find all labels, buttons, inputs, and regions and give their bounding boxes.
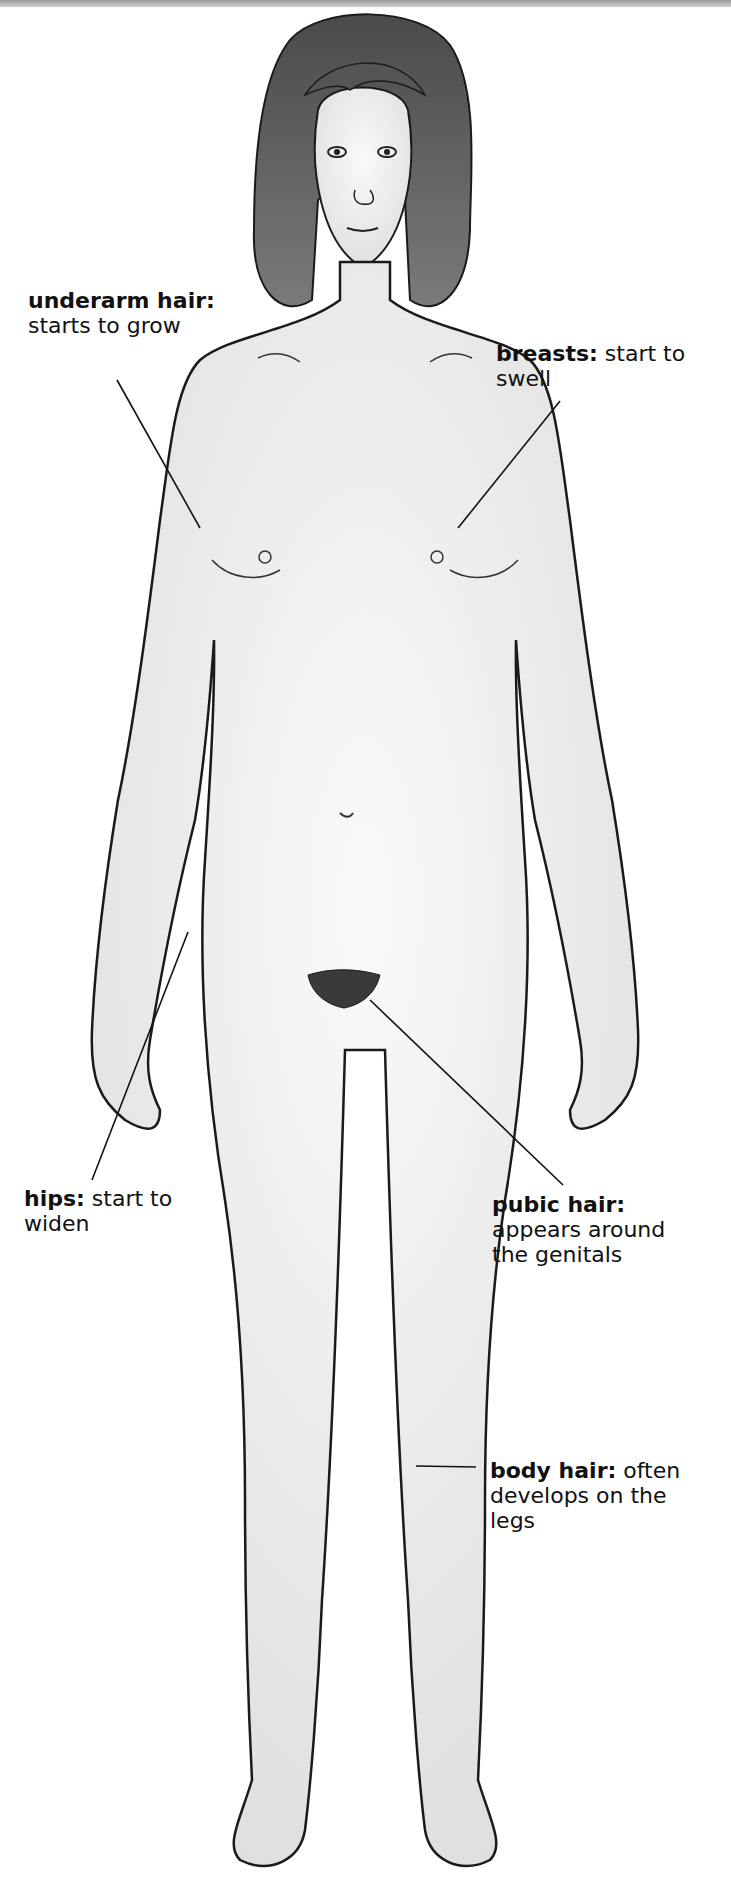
label-description: develops on the: [490, 1483, 667, 1508]
label-body-hair: body hair: often develops on the legs: [490, 1458, 680, 1533]
leader-line-body: [416, 1466, 476, 1467]
label-description: swell: [496, 366, 551, 391]
label-description: widen: [24, 1211, 90, 1236]
label-breasts: breasts: start to swell: [496, 341, 685, 391]
label-hips: hips: start to widen: [24, 1186, 172, 1236]
body-figure-illustration: [0, 0, 731, 1881]
label-underarm-hair: underarm hair: starts to grow: [28, 288, 215, 338]
label-term: pubic hair:: [492, 1192, 625, 1217]
label-description: starts to grow: [28, 313, 181, 338]
label-term: underarm hair:: [28, 288, 215, 313]
label-description: appears around: [492, 1217, 665, 1242]
face: [315, 88, 411, 269]
label-term: body hair:: [490, 1458, 616, 1483]
label-term: breasts:: [496, 341, 598, 366]
label-description: legs: [490, 1508, 535, 1533]
label-term: hips:: [24, 1186, 85, 1211]
body: [92, 262, 638, 1866]
label-description: the genitals: [492, 1242, 622, 1267]
label-pubic-hair: pubic hair: appears around the genitals: [492, 1192, 665, 1267]
